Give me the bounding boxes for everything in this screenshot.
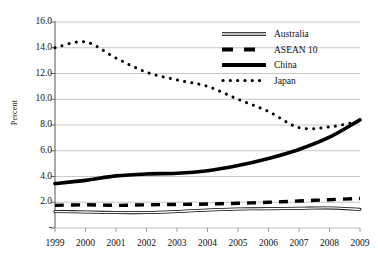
x-tick-label: 2004 xyxy=(198,238,217,248)
x-tick-label: 2007 xyxy=(290,238,309,248)
y-tick-label: 2.0 xyxy=(18,198,52,208)
y-tick-label: 8.0 xyxy=(18,120,52,130)
x-tick-label: 1999 xyxy=(46,238,65,248)
y-tick-label: 10.0 xyxy=(18,95,52,105)
legend-item-japan[interactable]: Japan xyxy=(223,76,296,86)
x-tick-label: 2008 xyxy=(320,238,339,248)
legend-label: Japan xyxy=(274,76,296,86)
x-tick-label: 2006 xyxy=(259,238,278,248)
legend-label: ASEAN 10 xyxy=(274,45,318,55)
line-chart: Percent 16.014.012.010.08.06.04.02.0- 19… xyxy=(0,0,378,264)
legend-item-australia[interactable]: Australia xyxy=(222,29,310,39)
data-series xyxy=(55,42,360,213)
legend-label: Australia xyxy=(274,29,310,39)
y-tick-label: 12.0 xyxy=(18,69,52,79)
chart-legend: AustraliaASEAN 10ChinaJapan xyxy=(222,29,318,86)
x-tick-label: 2003 xyxy=(168,238,187,248)
y-axis-ticks: 16.014.012.010.08.06.04.02.0- xyxy=(12,0,52,264)
legend-item-asean-10[interactable]: ASEAN 10 xyxy=(222,45,318,55)
y-tick-label: - xyxy=(18,223,52,233)
y-tick-label: 14.0 xyxy=(18,43,52,53)
x-tick-label: 2009 xyxy=(351,238,370,248)
x-tick-label: 2002 xyxy=(137,238,156,248)
x-tick-label: 2005 xyxy=(229,238,248,248)
y-tick-label: 16.0 xyxy=(18,17,52,27)
legend-label: China xyxy=(274,60,297,70)
y-tick-label: 4.0 xyxy=(18,172,52,182)
x-tick-label: 2001 xyxy=(107,238,126,248)
legend-item-china[interactable]: China xyxy=(222,60,297,70)
series-australia xyxy=(55,208,360,213)
plot-area: AustraliaASEAN 10ChinaJapan xyxy=(0,0,378,264)
x-tick-label: 2000 xyxy=(76,238,95,248)
y-tick-label: 6.0 xyxy=(18,146,52,156)
